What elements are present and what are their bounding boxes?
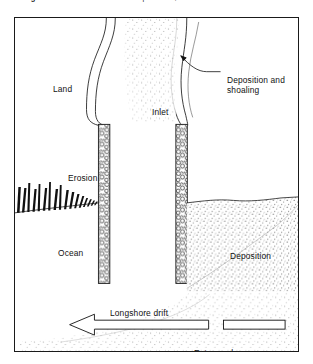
figure-frame: Land Inlet Erosion Ocean Deposition Depo…: [14, 17, 299, 352]
right-jetty: [176, 124, 187, 283]
drift-arrow-tail: [224, 320, 286, 329]
coastal-inlet-diagram: [15, 18, 298, 351]
label-inlet: Inlet: [152, 107, 169, 117]
deposition-area: [187, 197, 298, 291]
figure-caption-number: Figure 1.23: [24, 0, 65, 2]
erosion-ticks: [17, 182, 98, 213]
label-ocean: Ocean: [58, 248, 83, 258]
figure-caption: Figure 1.23 Conditions at Jupiter Inlet,…: [24, 0, 202, 5]
label-longshore-drift: Longshore drift: [110, 308, 168, 318]
figure-caption-text: Conditions at Jupiter Inlet, Florida: [87, 0, 202, 2]
label-deposition: Deposition: [230, 251, 271, 261]
eroding-shoreline: [15, 182, 98, 213]
label-erosion: Erosion: [68, 173, 97, 183]
deposition-shoaling-leader: [181, 56, 221, 72]
label-land: Land: [53, 84, 72, 94]
left-jetty: [98, 124, 109, 283]
label-entrance-bar: Entrance bar: [194, 348, 244, 352]
label-deposition-and-shoaling: Deposition and shoaling: [227, 75, 291, 95]
shoal-deposit-stipple: [124, 18, 180, 121]
